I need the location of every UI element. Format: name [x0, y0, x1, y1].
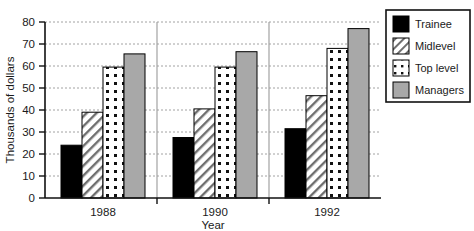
x-axis-ticks [157, 198, 269, 204]
y-axis-tick-labels: 80 70 60 50 40 30 20 10 0 [22, 16, 35, 204]
legend-swatch-trainee [393, 16, 409, 32]
x-tick-label-1990: 1990 [202, 206, 228, 218]
legend-label-trainee: Trainee [415, 18, 452, 30]
legend: Trainee Midlevel Top level Managers [386, 10, 470, 102]
y-tick-label-0: 0 [29, 192, 35, 204]
legend-item-top-level[interactable]: Top level [393, 60, 458, 76]
bar-1990-managers [236, 52, 257, 198]
y-tick-label-60: 60 [22, 60, 35, 72]
bar-chart: 80 70 60 50 40 30 20 10 0 1988 1990 1992… [0, 0, 474, 231]
bar-1992-midlevel [306, 96, 327, 198]
x-tick-label-1988: 1988 [90, 206, 116, 218]
legend-item-managers[interactable]: Managers [393, 82, 464, 98]
bar-1990-top-level [215, 67, 236, 198]
y-tick-label-40: 40 [22, 104, 35, 116]
x-axis-tick-labels: 1988 1990 1992 [90, 206, 340, 218]
y-tick-label-80: 80 [22, 16, 35, 28]
y-tick-label-30: 30 [22, 126, 35, 138]
y-axis-ticks [39, 22, 45, 198]
bar-1988-midlevel [82, 112, 103, 198]
legend-label-top-level: Top level [415, 62, 458, 74]
legend-item-midlevel[interactable]: Midlevel [393, 38, 455, 54]
y-tick-label-20: 20 [22, 148, 35, 160]
bar-1992-trainee [285, 129, 306, 198]
legend-label-midlevel: Midlevel [415, 40, 455, 52]
x-axis-title: Year [201, 219, 224, 231]
legend-swatch-midlevel [393, 38, 409, 54]
y-tick-label-70: 70 [22, 38, 35, 50]
bar-1992-top-level [327, 48, 348, 198]
legend-swatch-managers [393, 82, 409, 98]
y-tick-label-50: 50 [22, 82, 35, 94]
bar-1990-trainee [173, 138, 194, 199]
legend-swatch-top-level [393, 60, 409, 76]
bar-1988-top-level [103, 67, 124, 198]
bar-1988-managers [124, 54, 145, 198]
chart-canvas: 80 70 60 50 40 30 20 10 0 1988 1990 1992… [0, 0, 474, 231]
bar-1988-trainee [61, 145, 82, 198]
legend-item-trainee[interactable]: Trainee [393, 16, 452, 32]
bar-1990-midlevel [194, 109, 215, 198]
y-axis-title: Thousands of dollars [4, 56, 16, 163]
legend-label-managers: Managers [415, 84, 464, 96]
bar-1992-managers [348, 29, 369, 198]
x-tick-label-1992: 1992 [314, 206, 340, 218]
y-tick-label-10: 10 [22, 170, 35, 182]
